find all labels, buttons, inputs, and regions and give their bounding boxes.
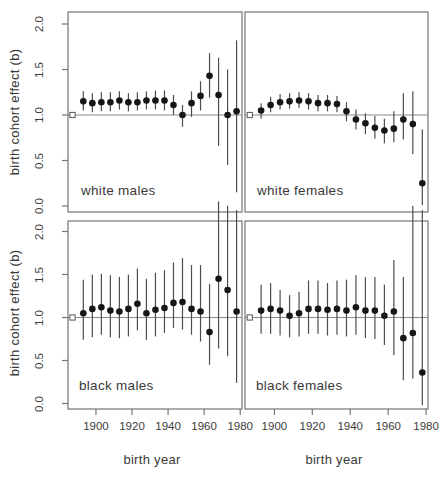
data-point <box>362 307 369 314</box>
data-point <box>324 306 331 313</box>
y-tick-label: 0.0 <box>33 396 45 412</box>
data-point <box>286 98 293 105</box>
data-point <box>258 307 265 314</box>
data-point <box>197 308 204 315</box>
data-point <box>125 306 132 313</box>
y-tick-label: 2.0 <box>33 16 45 32</box>
data-point <box>334 101 341 108</box>
data-point <box>296 310 303 317</box>
panel-label-white-males: white males <box>81 183 156 198</box>
data-point <box>305 98 312 105</box>
x-tick-label: 1960 <box>191 420 217 432</box>
data-point <box>372 307 379 314</box>
data-point <box>125 99 132 106</box>
data-point <box>143 97 150 104</box>
data-point <box>188 100 195 107</box>
y-tick-label: 0.5 <box>33 153 45 169</box>
data-point <box>324 100 331 107</box>
data-point <box>410 121 417 128</box>
data-point <box>152 306 159 313</box>
data-point <box>362 120 369 127</box>
panel-label-black-females: black females <box>256 378 342 393</box>
data-point <box>152 97 159 104</box>
x-tick-label: 1980 <box>227 420 253 432</box>
data-point <box>410 330 417 337</box>
x-tick-label: 1900 <box>262 420 288 432</box>
reference-square-marker <box>247 112 252 117</box>
data-point <box>170 300 177 307</box>
y-tick-label: 1.5 <box>33 267 45 283</box>
chart-canvas <box>0 0 448 479</box>
data-point <box>419 180 426 187</box>
panel-label-white-females: white females <box>257 183 343 198</box>
x-tick-label: 1940 <box>337 420 363 432</box>
data-point <box>107 307 114 314</box>
data-point <box>305 306 312 313</box>
data-point <box>400 335 407 342</box>
data-point <box>353 304 360 311</box>
x-tick-label: 1900 <box>83 420 109 432</box>
y-axis-label-bottom-row: birth cohort effect (b) <box>7 250 22 377</box>
data-point <box>134 300 141 307</box>
data-point <box>343 307 350 314</box>
y-tick-label: 1.0 <box>33 310 45 326</box>
data-point <box>381 127 388 134</box>
data-point <box>381 312 388 319</box>
data-point <box>286 312 293 319</box>
data-point <box>134 99 141 106</box>
y-axis-label-top-row: birth cohort effect (b) <box>7 49 22 176</box>
data-point <box>188 306 195 313</box>
data-point <box>233 308 240 315</box>
reference-square-marker <box>247 315 252 320</box>
data-point <box>277 99 284 106</box>
panel-white-males <box>62 12 242 212</box>
data-point <box>224 112 231 119</box>
data-point <box>224 287 231 294</box>
data-point <box>98 99 105 106</box>
data-point <box>267 102 274 109</box>
data-point <box>116 97 123 104</box>
data-point <box>179 112 186 119</box>
data-point <box>89 100 96 107</box>
data-point <box>80 310 87 317</box>
data-point <box>296 97 303 104</box>
x-tick-label: 1920 <box>300 420 326 432</box>
data-point <box>80 98 87 105</box>
data-point <box>170 102 177 109</box>
data-point <box>267 306 274 313</box>
data-point <box>391 125 398 132</box>
data-point <box>179 299 186 306</box>
data-point <box>391 308 398 315</box>
data-point <box>116 308 123 315</box>
data-point <box>343 108 350 115</box>
data-point <box>215 92 222 99</box>
x-tick-label: 1940 <box>155 420 181 432</box>
panel-white-females <box>245 12 428 212</box>
data-point <box>107 99 114 106</box>
figure-birth-cohort-effects: birth cohort effect (b) birth cohort eff… <box>0 0 448 479</box>
data-point <box>400 116 407 123</box>
data-point <box>372 124 379 131</box>
y-tick-label: 0.0 <box>33 198 45 214</box>
y-tick-label: 1.0 <box>33 107 45 123</box>
data-point <box>206 329 213 336</box>
data-point <box>353 116 360 123</box>
y-tick-label: 0.5 <box>33 353 45 369</box>
panel-label-black-males: black males <box>79 378 154 393</box>
data-point <box>258 107 265 114</box>
data-point <box>233 108 240 115</box>
x-axis-label-right: birth year <box>305 452 362 467</box>
reference-square-marker <box>70 315 75 320</box>
x-tick-label: 1980 <box>413 420 439 432</box>
reference-square-marker <box>70 112 75 117</box>
data-point <box>315 306 322 313</box>
data-point <box>143 310 150 317</box>
data-point <box>197 93 204 100</box>
data-point <box>161 97 168 104</box>
data-point <box>161 305 168 312</box>
data-point <box>215 276 222 283</box>
x-tick-label: 1920 <box>119 420 145 432</box>
data-point <box>98 304 105 311</box>
y-tick-label: 2.0 <box>33 224 45 240</box>
x-axis-label-left: birth year <box>123 452 180 467</box>
